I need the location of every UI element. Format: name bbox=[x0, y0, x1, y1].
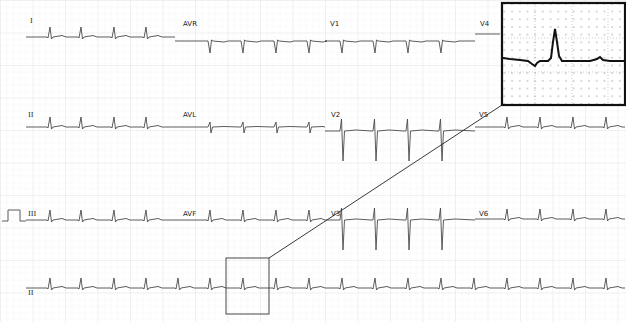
lead-label-avr: AVR bbox=[183, 20, 197, 28]
magnifier-inset bbox=[502, 3, 625, 105]
lead-label-iii: III bbox=[28, 210, 37, 218]
lead-label-v6: V6 bbox=[479, 210, 489, 218]
lead-label-i: I bbox=[30, 17, 33, 25]
lead-label-avl: AVL bbox=[183, 111, 196, 119]
lead-label-ii: II bbox=[28, 111, 34, 119]
lead-label-v1: V1 bbox=[330, 20, 339, 28]
lead-label-ii-rhythm: II bbox=[28, 289, 34, 297]
lead-label-v2: V2 bbox=[331, 111, 340, 119]
lead-label-v4: V4 bbox=[480, 20, 490, 28]
ecg-figure: IAVRV1V4IIAVLV2V5IIIAVFV3V6II bbox=[0, 0, 626, 322]
lead-label-avf: AVF bbox=[183, 210, 196, 218]
